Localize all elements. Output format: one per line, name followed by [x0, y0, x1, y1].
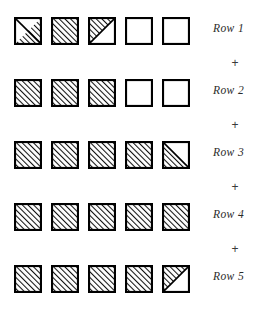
hatched-square	[162, 203, 190, 231]
row-label: Row 3	[213, 146, 244, 158]
hatched-square	[14, 79, 42, 107]
plus-separator-icon: +	[228, 243, 242, 255]
pattern-row: Row 2	[0, 78, 269, 110]
hatched-square	[125, 203, 153, 231]
hatched-square	[162, 79, 190, 107]
hatched-square	[14, 265, 42, 293]
pattern-row: Row 1	[0, 16, 269, 48]
hatched-square	[51, 141, 79, 169]
pattern-row: Row 4	[0, 202, 269, 234]
row-label: Row 1	[213, 22, 244, 34]
hatched-square	[51, 265, 79, 293]
hatched-square	[51, 17, 79, 45]
hatched-square	[51, 79, 79, 107]
hatched-square	[14, 203, 42, 231]
pattern-row: Row 5	[0, 264, 269, 296]
hatched-square	[51, 203, 79, 231]
figure-canvas: Row 1Row 2Row 3Row 4Row 5++++	[0, 0, 269, 315]
hatched-square	[125, 17, 153, 45]
row-label: Row 5	[213, 270, 244, 282]
hatched-square	[88, 265, 116, 293]
pattern-row: Row 3	[0, 140, 269, 172]
hatched-square	[125, 79, 153, 107]
hatched-square	[162, 141, 190, 169]
hatched-square	[125, 265, 153, 293]
hatched-square	[88, 203, 116, 231]
row-label: Row 2	[213, 84, 244, 96]
hatched-square	[162, 17, 190, 45]
hatched-square	[14, 141, 42, 169]
hatched-square	[125, 141, 153, 169]
plus-separator-icon: +	[228, 119, 242, 131]
row-label: Row 4	[213, 208, 244, 220]
plus-separator-icon: +	[228, 57, 242, 69]
hatched-square	[88, 141, 116, 169]
hatched-square	[88, 17, 116, 45]
hatched-square	[88, 79, 116, 107]
hatched-square	[162, 265, 190, 293]
plus-separator-icon: +	[228, 181, 242, 193]
hatched-square	[14, 17, 42, 45]
